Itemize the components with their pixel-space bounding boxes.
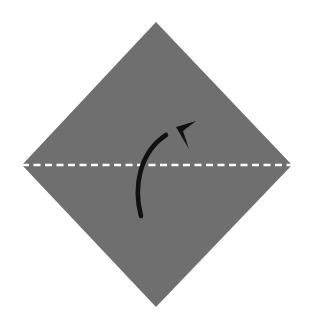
origami-diagram-canvas: Origami valley fold diagram <box>0 0 312 328</box>
origami-diagram-svg: Origami valley fold diagram <box>0 0 312 328</box>
